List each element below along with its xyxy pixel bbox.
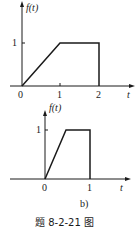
figure-graphics — [0, 0, 140, 239]
bottom-ylabel: f(t) — [49, 103, 61, 113]
bottom-chart — [10, 110, 131, 181]
bottom-y-arrow-icon — [43, 110, 47, 116]
top-xlabel: t — [127, 90, 130, 100]
figure-caption: 题 8-2-21 图 — [35, 214, 94, 229]
top-x-arrow-icon — [129, 84, 135, 88]
bottom-signal-curve — [45, 130, 90, 179]
bottom-x-arrow-icon — [125, 177, 131, 181]
top-xtick-0: 0 — [18, 90, 23, 100]
top-ytick-label: 1 — [12, 38, 17, 48]
top-xtick-2: 2 — [96, 90, 101, 100]
bottom-xlabel: t — [120, 183, 123, 193]
top-y-arrow-icon — [20, 1, 24, 7]
bottom-xtick-1: 1 — [87, 183, 92, 193]
top-signal-curve — [22, 43, 99, 86]
bottom-ytick-label: 1 — [36, 125, 41, 135]
top-chart — [10, 1, 135, 88]
bottom-xtick-0: 0 — [42, 183, 47, 193]
bottom-sublabel: b) — [80, 199, 88, 209]
top-xtick-1-label: 1 — [57, 90, 62, 100]
top-ylabel: f(t) — [26, 3, 38, 13]
